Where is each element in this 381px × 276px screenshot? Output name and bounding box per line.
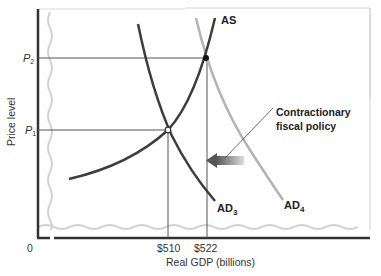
equilibrium-p2-filled — [203, 55, 209, 61]
x-axis-break-wave-main — [38, 225, 358, 229]
x-tick-522: $522 — [194, 242, 218, 254]
x-axis-title: Real GDP (billions) — [166, 256, 255, 268]
p2-tick-label: P2 — [23, 52, 34, 65]
ad4-label: AD4 — [284, 199, 305, 214]
plot-frame — [38, 8, 370, 98]
p1-tick-label: P1 — [25, 124, 36, 137]
origin-label: 0 — [27, 242, 33, 254]
annotation-line-2: fiscal policy — [276, 120, 336, 132]
annotation-line-1: Contractionary — [276, 106, 351, 118]
leftward-shift-arrow — [206, 153, 244, 168]
ad3-label: AD3 — [217, 202, 238, 217]
x-tick-510: $510 — [157, 242, 181, 254]
x-axis-break-wave — [38, 86, 54, 88]
chart: AS AD3 AD4 Contractionary fiscal policy … — [0, 0, 381, 276]
y-axis-break-wave — [48, 12, 52, 230]
y-axis-title: Price level — [5, 98, 17, 146]
as-label: AS — [221, 14, 236, 26]
equilibrium-p1-open — [165, 127, 171, 133]
